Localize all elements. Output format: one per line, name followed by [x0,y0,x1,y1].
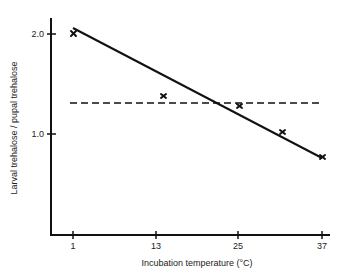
y-tick-1: 1.0 [31,129,56,139]
x-tick-label-13: 13 [151,241,161,251]
x-marker-icon [237,104,242,108]
x-tick-label-25: 25 [233,241,243,251]
x-tick-label-37: 37 [317,241,327,251]
y-tick-2: 2.0 [31,29,56,39]
chart: 2.0 1.0 1 13 25 37 Incubation temperatur… [0,0,342,274]
x-marker-icon [280,130,285,134]
x-marker-icon [161,94,166,98]
regression-line [73,28,322,158]
y-tick-label-1: 1.0 [31,129,44,139]
x-axis-title: Incubation temperature (°C) [141,258,252,268]
y-axis-title: Larval trehalose / pupal trehalose [9,61,19,194]
y-tick-label-2: 2.0 [31,29,44,39]
x-marker-icon [71,31,76,36]
x-tick-label-1: 1 [70,241,75,251]
